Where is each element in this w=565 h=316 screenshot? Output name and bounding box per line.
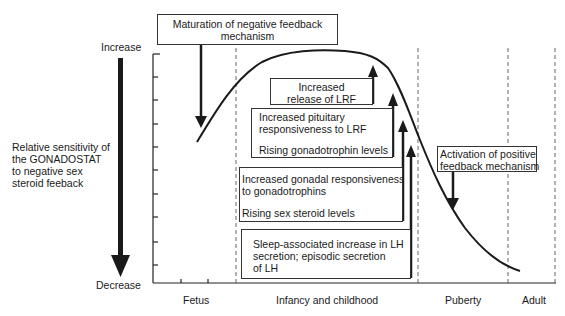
gonadal-box-line: Increased gonadal responsiveness: [242, 173, 402, 185]
maturation-arrow-icon: [195, 44, 207, 128]
y-axis-title-line: the GONADOSTAT: [12, 153, 110, 165]
positive-feedback-box: Activation of positive feedback mechanis…: [437, 146, 537, 172]
sleep-lh-box: Sleep-associated increase in LH secretio…: [241, 229, 411, 279]
sleep-lh-box-line: of LH: [253, 262, 410, 274]
phase-label-adult: Adult: [522, 294, 546, 306]
sleep-lh-box-line: secretion; episodic secretion: [253, 250, 410, 262]
lrf-release-box-line: Increased: [271, 81, 372, 93]
phase-label-infancy-childhood: Infancy and childhood: [276, 294, 378, 306]
lrf-release-box: Increased release of LRF: [270, 78, 373, 105]
gonadal-box-line: to gonadotrophins: [242, 185, 402, 197]
lrf-release-box-line: release of LRF: [271, 93, 372, 105]
pituitary-box: Increased pituitary responsiveness to LR…: [251, 108, 393, 158]
y-axis-title: Relative sensitivity of the GONADOSTAT t…: [12, 141, 110, 189]
maturation-box: Maturation of negative feedback mechanis…: [157, 14, 338, 45]
gonadal-box-line: Rising sex steroid levels: [242, 207, 402, 219]
x-axis: [153, 279, 556, 283]
y-axis-top-label: Increase: [101, 41, 141, 53]
gonadal-box: Increased gonadal responsiveness to gona…: [239, 167, 403, 222]
y-axis-title-line: to negative sex: [12, 165, 110, 177]
pituitary-box-line: responsiveness to LRF: [259, 123, 392, 135]
pituitary-box-line: Increased pituitary: [259, 111, 392, 123]
phase-label-fetus: Fetus: [183, 294, 209, 306]
sensitivity-arrow-icon: [111, 58, 130, 277]
sleep-lh-box-line: Sleep-associated increase in LH: [253, 238, 410, 250]
maturation-box-line: mechanism: [158, 30, 337, 42]
positive-feedback-box-line: Activation of positive: [440, 148, 536, 160]
y-axis-bottom-label: Decrease: [96, 279, 141, 291]
gonadostat-diagram: Increase Decrease Relative sensitivity o…: [0, 0, 565, 316]
maturation-box-line: Maturation of negative feedback: [158, 18, 337, 30]
y-axis-title-line: steroid feeback: [12, 177, 110, 189]
positive-feedback-box-line: feedback mechanism: [440, 160, 536, 172]
y-axis-title-line: Relative sensitivity of: [12, 141, 110, 153]
y-axis: [153, 54, 160, 283]
phase-label-puberty: Puberty: [445, 294, 481, 306]
pituitary-box-line: Rising gonadotrophin levels: [259, 144, 392, 156]
